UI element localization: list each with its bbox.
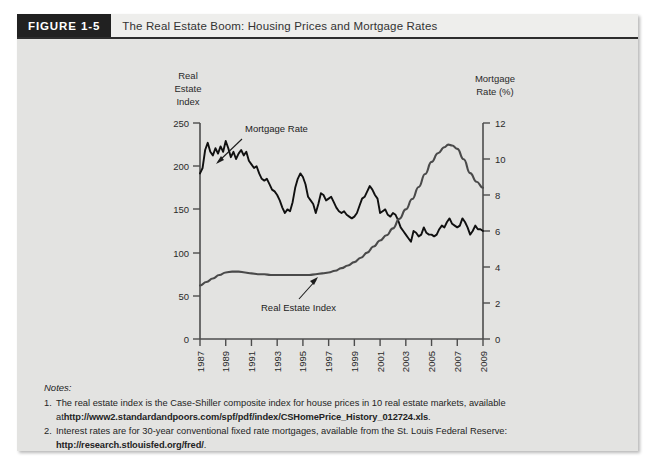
figure-header: FIGURE 1-5 The Real Estate Boom: Housing… (17, 14, 638, 39)
line-chart: Real Estate Index Mortgage Rate (%) 250 … (17, 41, 638, 379)
left-axis-title-line1: Real (178, 70, 198, 81)
right-tick-10: 10 (495, 154, 506, 165)
note-url-lead: at (56, 411, 64, 424)
x-axis-ticks: 1987198919911993199519971999200120032005… (195, 339, 489, 372)
note-item-continuation: http://research.stlouisfed.org/fred/ . (44, 439, 629, 452)
chart-panel: Real Estate Index Mortgage Rate (%) 250 … (17, 41, 638, 379)
mortgage-rate-line (200, 141, 483, 242)
x-tick-label-1989: 1989 (220, 351, 231, 372)
note-text: Interest rates are for 30-year conventio… (56, 425, 629, 438)
real-estate-index-annotation-label: Real Estate Index (261, 302, 336, 313)
x-tick-label-2007: 2007 (452, 351, 463, 372)
left-tick-100: 100 (173, 248, 189, 259)
left-tick-200: 200 (173, 161, 189, 172)
x-tick-label-2009: 2009 (478, 351, 489, 372)
left-tick-250: 250 (173, 118, 189, 129)
notes-block: Notes: 1. The real estate index is the C… (44, 382, 629, 452)
note-number: 2. (44, 425, 56, 438)
note-url-tail: . (204, 439, 207, 452)
right-tick-8: 8 (495, 190, 500, 201)
note-item: 2. Interest rates are for 30-year conven… (44, 425, 629, 438)
left-tick-0: 0 (184, 334, 189, 345)
x-tick-label-1987: 1987 (195, 351, 206, 372)
real-estate-index-line (200, 145, 483, 286)
x-tick-label-2001: 2001 (375, 351, 386, 372)
right-tick-2: 2 (495, 298, 500, 309)
right-tick-12: 12 (495, 118, 506, 129)
right-tick-4: 4 (495, 262, 500, 273)
right-tick-0: 0 (495, 334, 500, 345)
left-tick-50: 50 (178, 291, 189, 302)
x-tick-label-2003: 2003 (400, 351, 411, 372)
notes-heading: Notes: (44, 382, 629, 393)
x-tick-label-1999: 1999 (349, 351, 360, 372)
left-axis-title-line3: Index (176, 96, 199, 107)
note-number: 1. (44, 397, 56, 410)
figure-title: The Real Estate Boom: Housing Prices and… (122, 20, 437, 32)
note-url-link[interactable]: http://research.stlouisfed.org/fred/ (56, 439, 204, 452)
note-item: 1. The real estate index is the Case-Shi… (44, 397, 629, 410)
note-url-link[interactable]: http://www2.standardandpoors.com/spf/pdf… (64, 411, 428, 424)
real-estate-index-arrowhead-icon (310, 277, 318, 285)
note-text: The real estate index is the Case-Shille… (56, 397, 629, 410)
x-tick-label-1993: 1993 (272, 351, 283, 372)
right-tick-6: 6 (495, 226, 500, 237)
x-tick-label-1997: 1997 (323, 351, 334, 372)
left-axis-ticks: 250 200 150 100 50 0 (173, 118, 200, 345)
right-axis-ticks: 12 10 8 6 4 2 0 (483, 118, 506, 345)
right-axis-title-line1: Mortgage (475, 73, 515, 84)
mortgage-rate-annotation-label: Mortgage Rate (245, 123, 308, 134)
x-tick-label-1991: 1991 (246, 351, 257, 372)
left-axis-title-line2: Estate (175, 83, 202, 94)
figure-container: FIGURE 1-5 The Real Estate Boom: Housing… (17, 14, 638, 451)
left-tick-150: 150 (173, 204, 189, 215)
right-axis-title-line2: Rate (%) (476, 86, 513, 97)
x-tick-label-1995: 1995 (297, 351, 308, 372)
note-item-continuation: at http://www2.standardandpoors.com/spf/… (44, 411, 629, 424)
note-url-tail: . (428, 411, 431, 424)
figure-number-tag: FIGURE 1-5 (17, 14, 111, 37)
x-tick-label-2005: 2005 (426, 351, 437, 372)
